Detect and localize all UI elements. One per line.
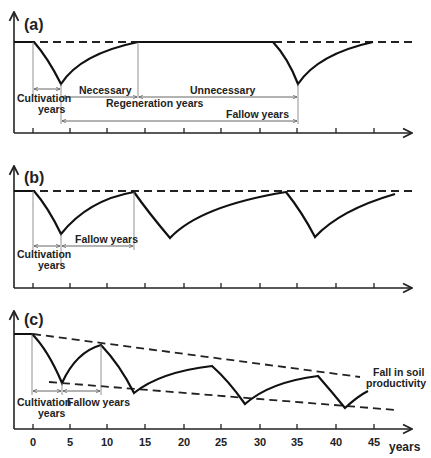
label-necessary: Necessary	[79, 84, 132, 96]
tick-label-5: 5	[67, 436, 73, 448]
label-unnecessary: Unnecessary	[190, 84, 256, 96]
panel-label-c: (c)	[24, 311, 44, 328]
tick-label-10: 10	[101, 436, 113, 448]
label-cultivation-years-a: years	[38, 103, 66, 115]
tick-label-40: 40	[330, 436, 342, 448]
productivity-curve-b	[14, 191, 395, 238]
x-axis-unit-label: years	[389, 440, 421, 454]
label-fallow-years-a: Fallow years	[226, 108, 289, 120]
tick-label-30: 30	[254, 436, 266, 448]
label-fallow-years-c: Fallow years	[67, 396, 130, 408]
tick-label-25: 25	[215, 436, 227, 448]
panel-label-a: (a)	[24, 16, 44, 33]
label-regeneration-years: Regeneration years	[106, 97, 204, 109]
label-fallow-years-b: Fallow years	[75, 233, 138, 245]
tick-label-20: 20	[178, 436, 190, 448]
panel-a: (a) Necessary Unnecessary Regeneration y…	[14, 12, 414, 133]
x-tick-labels: 0 5 10 15 20 25 30 35 40 45	[30, 436, 380, 448]
label-cultivation-years-c: years	[38, 407, 66, 419]
tick-label-45: 45	[368, 436, 380, 448]
soil-productivity-diagram: (a) Necessary Unnecessary Regeneration y…	[0, 0, 431, 458]
tick-label-35: 35	[291, 436, 303, 448]
panel-b: (b) Fallow years Cultivation years	[14, 166, 414, 288]
productivity-curve-a	[14, 42, 373, 84]
panel-c: (c) Cultivation years Fallow years Fall …	[14, 311, 426, 454]
label-productivity: productivity	[366, 377, 426, 389]
panel-label-b: (b)	[24, 169, 44, 186]
label-cultivation-years-b: years	[38, 259, 66, 271]
tick-label-15: 15	[139, 436, 151, 448]
tick-label-0: 0	[30, 436, 36, 448]
